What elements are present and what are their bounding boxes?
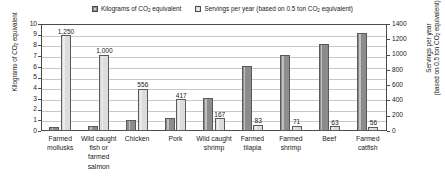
bar-group: 417: [156, 24, 194, 131]
bar-group: 83: [233, 24, 271, 131]
y-axis-right-tick-mark: [387, 131, 390, 132]
x-axis-category-label: Beef: [310, 134, 348, 171]
y-axis-right-tick-label: 400: [392, 97, 414, 104]
x-axis-category-label: Farmed mollusks: [41, 134, 79, 171]
bar-value-label: 83: [254, 118, 261, 125]
bar-servings-per-year: 71: [292, 126, 302, 131]
bar-kilograms-co2: [126, 120, 136, 131]
bar-group: 1,000: [79, 24, 117, 131]
bar-kilograms-co2: [319, 44, 329, 131]
x-axis-category-label: Farmed tilapia: [233, 134, 271, 171]
y-axis-right-tick-label: 1000: [392, 51, 414, 58]
bar-chart: Kilograms of CO2 equivalent Servings per…: [0, 0, 445, 189]
bar-servings-per-year: 56: [368, 127, 378, 131]
legend-swatch-kilograms-co2: [92, 6, 98, 12]
y-axis-right-tick-label: 1400: [392, 21, 414, 28]
y-axis-right-tick-mark: [387, 100, 390, 101]
y-axis-right-title-line2: (based on 0.5 ton CO2 equivalent): [433, 0, 441, 103]
y-axis-right-tick-label: 200: [392, 112, 414, 119]
bar-kilograms-co2: [242, 66, 252, 131]
bar-kilograms-co2: [357, 33, 367, 131]
bar-value-label: 417: [176, 93, 187, 100]
y-axis-right-title: Servings per year (based on 0.5 ton CO2 …: [425, 0, 441, 103]
x-axis-category-labels: Farmed mollusksWild caught fish or farme…: [41, 134, 387, 171]
bar-group: 71: [272, 24, 310, 131]
bar-servings-per-year: 83: [253, 125, 263, 131]
x-axis-category-label: Pork: [156, 134, 194, 171]
y-axis-left-tick-label: 6: [21, 64, 37, 71]
y-axis-left-tick-label: 0: [21, 128, 37, 135]
y-axis-left-tick-label: 5: [21, 74, 37, 81]
bar-value-label: 71: [293, 119, 300, 126]
y-axis-left-tick-label: 2: [21, 106, 37, 113]
bar-group: 556: [118, 24, 156, 131]
bar-servings-per-year: 417: [176, 99, 186, 131]
y-axis-left-tick-label: 3: [21, 96, 37, 103]
bar-value-label: 1,000: [96, 48, 113, 55]
y-axis-right-tick-mark: [387, 85, 390, 86]
bar-group: 56: [349, 24, 387, 131]
y-axis-right-tick-mark: [387, 39, 390, 40]
bar-groups: 1,2501,00055641716783716356: [41, 24, 387, 131]
bar-kilograms-co2: [280, 55, 290, 131]
bar-value-label: 56: [370, 120, 377, 127]
y-axis-left-tick-mark: [38, 131, 41, 132]
bar-kilograms-co2: [165, 118, 175, 131]
y-axis-right-tick-mark: [387, 24, 390, 25]
y-axis-right-tick-label: 0: [392, 128, 414, 135]
y-axis-left-title-subscript: 2: [14, 43, 19, 46]
bar-group: 1,250: [41, 24, 79, 131]
y-axis-right-tick-label: 800: [392, 67, 414, 74]
bar-servings-per-year: 556: [138, 89, 148, 131]
legend-item-servings-per-year: Servings per year (based on 0.5 ton CO2 …: [195, 6, 353, 13]
bar-kilograms-co2: [49, 127, 59, 131]
y-axis-right-tick-label: 600: [392, 82, 414, 89]
y-axis-left-tick-label: 4: [21, 85, 37, 92]
bar-kilograms-co2: [88, 126, 98, 131]
y-axis-left-tick-label: 7: [21, 53, 37, 60]
y-axis-left-tick-label: 1: [21, 117, 37, 124]
bar-kilograms-co2: [203, 98, 213, 131]
chart-legend: Kilograms of CO2 equivalent Servings per…: [0, 6, 445, 13]
legend-item-kilograms-co2: Kilograms of CO2 equivalent: [92, 6, 181, 13]
y-axis-left-title: Kilograms of CO2 equivalent: [11, 0, 19, 107]
x-axis-category-label: Chicken: [118, 134, 156, 171]
bar-group: 167: [195, 24, 233, 131]
bar-value-label: 167: [214, 112, 225, 119]
y-axis-left-tick-label: 10: [21, 21, 37, 28]
x-axis-category-label: Farmed shrimp: [272, 134, 310, 171]
x-axis-category-label: Wild caught fish or farmed salmon: [79, 134, 117, 171]
y-axis-right-tick-label: 1200: [392, 36, 414, 43]
bar-servings-per-year: 167: [215, 118, 225, 131]
x-axis-category-label: Wild caught shrimp: [195, 134, 233, 171]
x-axis-category-label: Farmed catfish: [349, 134, 387, 171]
legend-label-kilograms-co2: Kilograms of CO2 equivalent: [101, 6, 181, 13]
y-axis-right-tick-mark: [387, 116, 390, 117]
y-axis-left-tick-label: 9: [21, 31, 37, 38]
bar-value-label: 63: [331, 120, 338, 127]
bar-value-label: 1,250: [58, 29, 75, 36]
bar-servings-per-year: 1,000: [99, 55, 109, 131]
legend-swatch-servings-per-year: [195, 6, 201, 12]
y-axis-right-tick-mark: [387, 70, 390, 71]
y-axis-right-tick-mark: [387, 55, 390, 56]
bar-servings-per-year: 1,250: [61, 35, 71, 131]
bar-group: 63: [310, 24, 348, 131]
bar-value-label: 556: [137, 82, 148, 89]
bar-servings-per-year: 63: [330, 126, 340, 131]
legend-subscript-1: 2: [317, 8, 320, 13]
y-axis-left-tick-label: 8: [21, 42, 37, 49]
legend-label-servings-per-year: Servings per year (based on 0.5 ton CO2 …: [204, 6, 353, 13]
